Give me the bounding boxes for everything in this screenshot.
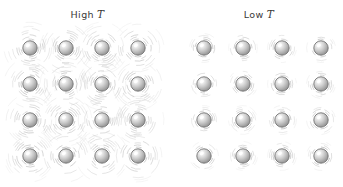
atom <box>197 41 211 55</box>
atom-sphere <box>59 77 73 91</box>
atom <box>314 113 328 127</box>
atom-sphere <box>59 41 73 55</box>
atom <box>59 113 73 127</box>
atom <box>314 41 328 55</box>
atom-sphere <box>95 41 109 55</box>
atom <box>59 149 73 163</box>
atom-sphere <box>314 113 328 127</box>
atom <box>236 113 250 127</box>
atom-sphere <box>197 113 211 127</box>
atom <box>131 149 145 163</box>
atom <box>236 149 250 163</box>
panel-low-temperature: LowT <box>175 0 343 187</box>
atom-sphere <box>131 41 145 55</box>
atom-sphere <box>275 41 289 55</box>
atom <box>131 77 145 91</box>
atom <box>197 149 211 163</box>
atom <box>23 113 37 127</box>
atom-sphere <box>59 149 73 163</box>
atom <box>275 113 289 127</box>
atom-sphere <box>236 77 250 91</box>
atom-sphere <box>131 149 145 163</box>
atom <box>95 113 109 127</box>
atom <box>314 77 328 91</box>
atom <box>95 149 109 163</box>
atom <box>197 77 211 91</box>
atom-sphere <box>314 149 328 163</box>
atom <box>23 149 37 163</box>
atom-sphere <box>59 113 73 127</box>
atom <box>314 149 328 163</box>
atom-sphere <box>197 149 211 163</box>
atom <box>275 41 289 55</box>
atom-sphere <box>275 113 289 127</box>
atom-sphere <box>197 41 211 55</box>
panel-high-temperature: HighT <box>0 0 175 187</box>
atom-sphere <box>23 41 37 55</box>
atom-sphere <box>236 41 250 55</box>
atom <box>197 113 211 127</box>
atom <box>275 149 289 163</box>
atom-sphere <box>236 113 250 127</box>
atom <box>23 77 37 91</box>
atom-sphere <box>95 77 109 91</box>
atom <box>95 77 109 91</box>
atom-sphere <box>314 41 328 55</box>
atom-sphere <box>314 77 328 91</box>
atom-sphere <box>131 113 145 127</box>
atom-sphere <box>23 77 37 91</box>
atom-sphere <box>23 149 37 163</box>
atom <box>95 41 109 55</box>
atom <box>236 41 250 55</box>
atom-sphere <box>275 77 289 91</box>
atom <box>59 77 73 91</box>
atom <box>131 113 145 127</box>
atom <box>236 77 250 91</box>
lattice-high-temperature <box>0 0 175 187</box>
thermal-vibration-figure: HighT LowT <box>0 0 343 187</box>
atom-sphere <box>95 149 109 163</box>
atom-sphere <box>95 113 109 127</box>
atom <box>275 77 289 91</box>
atom-sphere <box>275 149 289 163</box>
atom-sphere <box>131 77 145 91</box>
atom <box>23 41 37 55</box>
atom <box>131 41 145 55</box>
atom-sphere <box>197 77 211 91</box>
atom-sphere <box>236 149 250 163</box>
lattice-low-temperature <box>175 0 343 187</box>
atom <box>59 41 73 55</box>
atom-sphere <box>23 113 37 127</box>
